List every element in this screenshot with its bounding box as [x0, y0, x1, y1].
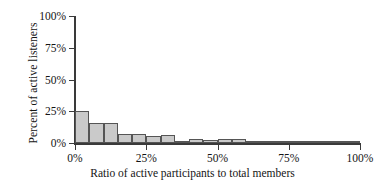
histogram-bar	[146, 136, 160, 143]
histogram-bar	[132, 134, 146, 143]
y-tick-label: 25%	[45, 105, 66, 117]
x-tick-label: 50%	[207, 152, 228, 164]
x-tick-mark	[75, 144, 76, 150]
histogram-figure: Percent of active listeners 0%25%50%75%1…	[0, 0, 385, 192]
histogram-bar	[260, 141, 274, 143]
histogram-bar	[332, 141, 346, 143]
histogram-bar	[161, 135, 175, 143]
x-tick-mark	[360, 144, 361, 150]
x-tick-label: 75%	[278, 152, 299, 164]
y-tick-mark	[69, 80, 75, 81]
y-axis-title: Percent of active listeners	[22, 8, 44, 158]
x-tick-label: 0%	[67, 152, 82, 164]
x-tick-mark	[289, 144, 290, 150]
histogram-bar	[118, 134, 132, 143]
histogram-bar	[289, 141, 303, 143]
histogram-bar	[104, 123, 118, 143]
y-tick-mark	[69, 16, 75, 17]
y-tick-label: 100%	[39, 10, 66, 22]
histogram-bar	[218, 139, 232, 143]
histogram-bar	[246, 141, 260, 143]
histogram-bar	[346, 141, 360, 143]
histogram-bar	[303, 141, 317, 143]
histogram-bar	[175, 141, 189, 143]
y-tick-label: 0%	[51, 137, 66, 149]
plot-area: 0%25%50%75%100% 0%25%50%75%100%	[75, 16, 360, 143]
x-tick-mark	[218, 144, 219, 150]
histogram-bar	[189, 139, 203, 143]
histogram-bar	[203, 140, 217, 143]
histogram-bar	[89, 123, 103, 143]
histogram-bar	[317, 141, 331, 143]
histogram-bar	[232, 139, 246, 143]
histogram-bar	[75, 111, 89, 143]
x-tick-label: 25%	[136, 152, 157, 164]
x-tick-mark	[146, 144, 147, 150]
y-tick-mark	[69, 48, 75, 49]
x-tick-label: 100%	[347, 152, 374, 164]
histogram-bar	[275, 141, 289, 143]
y-tick-label: 75%	[45, 42, 66, 54]
y-tick-label: 50%	[45, 74, 66, 86]
x-axis-title: Ratio of active participants to total me…	[0, 167, 385, 179]
